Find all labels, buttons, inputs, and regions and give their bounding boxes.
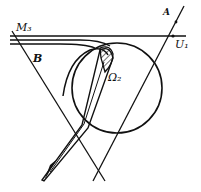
label-b: B bbox=[32, 52, 42, 65]
geometry-diagram: M₃ A U₁ B Ω₂ bbox=[0, 0, 201, 192]
blade-inner-line bbox=[50, 62, 104, 172]
label-a: A bbox=[162, 7, 170, 17]
label-omega2: Ω₂ bbox=[107, 71, 122, 84]
right-diagonal-line bbox=[93, 6, 184, 181]
parallel-line-1 bbox=[10, 40, 110, 46]
label-m3: M₃ bbox=[15, 21, 32, 34]
point-a-marker bbox=[175, 21, 178, 24]
label-u1: U₁ bbox=[175, 38, 189, 51]
